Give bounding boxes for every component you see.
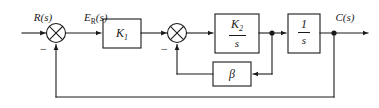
block-k2-over-s-label: K2 s	[222, 18, 252, 49]
takeoff-dot-after-1s	[331, 30, 336, 35]
input-signal-label: R(s)	[34, 12, 52, 23]
summing-junction-outer-minus-sign: −	[40, 43, 47, 55]
block-diagram-canvas: R(s) ER(s) C(s) K1 K2 s 1 s β − −	[0, 0, 379, 108]
takeoff-dot-after-k2s	[269, 30, 274, 35]
block-beta-label: β	[229, 68, 235, 80]
block-one-over-s-label: 1 s	[291, 18, 317, 46]
block-diagram-graphics	[0, 0, 379, 108]
summing-junction-inner-minus-sign: −	[161, 43, 168, 55]
error-signal-label: ER(s)	[84, 12, 107, 26]
block-gain-k1-label: K1	[116, 27, 128, 42]
output-signal-label: C(s)	[336, 12, 355, 23]
